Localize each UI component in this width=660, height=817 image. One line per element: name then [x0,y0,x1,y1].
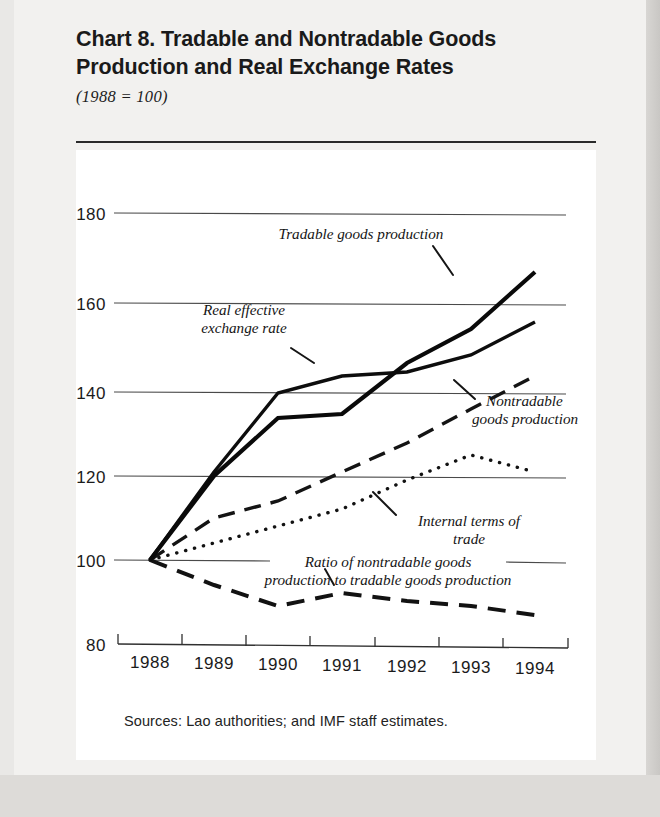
annotation-reer: Real effective exchange rate [201,301,287,336]
x-tick-label-1990: 1990 [258,655,298,674]
annotation-reer-line-1: Real effective [202,301,285,318]
gridline-100-right [506,562,566,563]
page-root: Chart 8. Tradable and Nontradable Goods … [0,0,660,817]
annotation-ratio-line-1: Ratio of nontradable goods [304,553,472,570]
leader-reer [291,348,314,363]
annotation-ratio: Ratio of nontradable goods production to… [264,553,512,588]
x-tick-label-1992: 1992 [387,657,427,676]
annotation-ratio-line-2: production to tradable goods production [264,571,512,588]
leader-itt [373,492,396,515]
annotation-internal-terms-of-trade: Internal terms of trade [417,512,522,547]
x-axis-labels: 1988 1989 1990 1991 1992 1993 1994 [130,653,555,678]
annotation-nontradable-line-1: Nontradable [485,392,563,409]
annotation-itt-line-2: trade [453,530,485,547]
x-tick-label-1994: 1994 [515,659,555,678]
chart-title-line-2: Production and Real Exchange Rates [76,54,596,82]
title-divider [76,141,596,143]
annotation-nontradable-line-2: goods production [472,410,578,427]
y-tick-label-180: 180 [76,205,106,224]
line-chart: 180 160 140 120 100 80 1988 1989 1990 19… [76,150,596,760]
y-tick-label-140: 140 [76,384,106,403]
x-tick-label-1988: 1988 [130,653,170,672]
annotation-reer-line-2: exchange rate [201,319,287,336]
printed-page: Chart 8. Tradable and Nontradable Goods … [14,0,646,775]
y-tick-label-120: 120 [76,468,106,487]
gridline-100-left [114,560,270,561]
y-tick-label-80: 80 [86,636,106,655]
x-tick-label-1989: 1989 [194,654,234,673]
gridline-180 [114,213,566,215]
gridlines [114,213,566,563]
y-tick-label-160: 160 [76,295,106,314]
page-bottom-shadow [0,775,660,817]
annotation-itt-line-1: Internal terms of [417,512,522,529]
axis-baseline [118,644,568,648]
y-axis-labels: 180 160 140 120 100 80 [76,205,106,655]
x-tick-label-1993: 1993 [451,658,491,677]
page-title: Chart 8. Tradable and Nontradable Goods … [76,26,596,81]
source-note: Sources: Lao authorities; and IMF staff … [124,713,448,729]
x-tick-label-1991: 1991 [322,656,362,675]
chart-title-line-1: Chart 8. Tradable and Nontradable Goods [76,26,596,54]
chart-panel: 180 160 140 120 100 80 1988 1989 1990 19… [76,150,596,760]
annotation-tradable-label: Tradable goods production [279,225,444,242]
y-tick-label-100: 100 [76,552,106,571]
gridline-120 [114,476,566,478]
chart-header: Chart 8. Tradable and Nontradable Goods … [76,26,596,107]
leader-tradable [433,246,453,275]
annotation-tradable: Tradable goods production [279,225,444,242]
page-edge-shadow [646,0,660,775]
x-axis [118,634,568,648]
annotation-nontradable: Nontradable goods production [472,392,578,427]
chart-subtitle: (1988 = 100) [76,87,596,107]
leader-nontradable [454,380,475,399]
